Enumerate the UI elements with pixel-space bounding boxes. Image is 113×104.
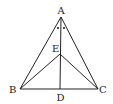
label-d: D (57, 92, 65, 103)
segment-ad (60, 17, 61, 89)
angle-mark-dot-left (57, 27, 59, 29)
label-a: A (57, 5, 66, 16)
segment-ac (61, 17, 98, 89)
segment-eb (20, 54, 60, 89)
angle-mark-dot-right (63, 27, 65, 29)
geometry-figure: A B C D E (0, 0, 113, 104)
label-e: E (52, 43, 59, 54)
label-b: B (9, 84, 16, 95)
segment-ec (60, 54, 98, 89)
label-c: C (99, 84, 107, 95)
triangle-diagram: A B C D E (0, 0, 113, 104)
